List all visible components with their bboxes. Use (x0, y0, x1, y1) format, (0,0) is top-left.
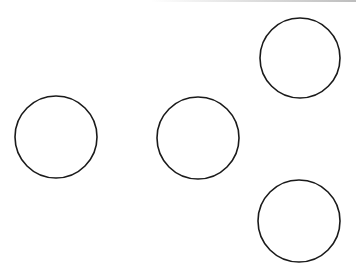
circle-top-right (260, 18, 340, 98)
circle-bottom-right (258, 180, 340, 262)
circle-middle (157, 97, 239, 179)
diagram-canvas (0, 0, 356, 275)
circle-left (15, 96, 97, 178)
